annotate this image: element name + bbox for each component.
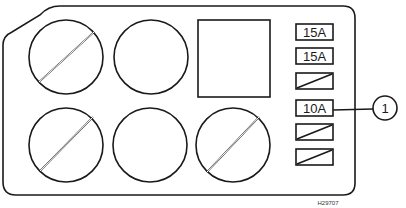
callout-leader-line	[333, 109, 373, 110]
callout-number: 1	[381, 101, 388, 116]
square-component	[198, 20, 270, 97]
fuse-rating-label: 15A	[303, 25, 326, 40]
fuse-column: 15A15A10A	[296, 24, 333, 165]
relay-circle	[114, 20, 188, 94]
fuse-rating-label: 10A	[303, 101, 326, 116]
relay-slash-1	[39, 32, 94, 82]
relay-row-1	[29, 20, 188, 94]
fuse-6	[296, 149, 333, 165]
fuse-slash	[297, 125, 332, 139]
relay-slash-2	[40, 117, 93, 171]
relay-circle	[113, 108, 187, 182]
reference-code: H29707	[317, 200, 339, 206]
relay-row-2	[29, 108, 270, 182]
fuse-slash	[297, 74, 332, 88]
fuse-slash	[297, 150, 332, 164]
fuse-box-diagram: 15A15A10A 1 H29707	[0, 0, 406, 208]
fuse-rating-label: 15A	[303, 49, 326, 64]
relay-slash-3	[207, 117, 259, 172]
fuse-2: 15A	[296, 48, 333, 64]
fuse-5	[296, 124, 333, 140]
fuse-1: 15A	[296, 24, 333, 40]
fuse-3	[296, 73, 333, 89]
fuse-4: 10A	[296, 100, 333, 116]
